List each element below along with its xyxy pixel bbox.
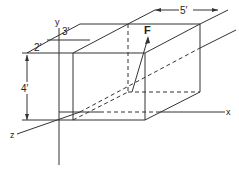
dim-5-label: 5′ [180, 5, 188, 16]
dim-4-arrow-bottom [25, 114, 29, 120]
z-axis-label: z [10, 130, 15, 140]
force-arrowhead [145, 36, 150, 44]
diagram-stage: F 5′ 3′ 2′ 4′ y x z [0, 0, 239, 179]
dim-5-arrow-right [212, 8, 218, 12]
y-axis-label: y [55, 17, 60, 27]
dim-4-label: 4′ [21, 83, 29, 94]
dim-5-extension [128, 10, 155, 24]
force-label: F [144, 24, 151, 36]
dim-3-label: 3′ [62, 26, 70, 37]
x-axis-label: x [226, 107, 231, 117]
force-vector-F [132, 38, 148, 92]
extension-line-back [200, 10, 228, 24]
z-axis-back [200, 30, 236, 48]
box-bottom-right-depth-edge [145, 92, 200, 120]
dim-5-arrow-left [155, 8, 161, 12]
box-top-right-depth-edge [145, 24, 200, 53]
box-bottom-left-depth-edge-hidden [73, 92, 128, 120]
box-top-left-depth-edge [73, 24, 128, 53]
z-axis-hidden [80, 48, 200, 112]
dim-2-label: 2′ [34, 42, 42, 53]
dim-4-arrow-top [25, 55, 29, 61]
box-diagram: F 5′ 3′ 2′ 4′ y x z [0, 0, 239, 179]
